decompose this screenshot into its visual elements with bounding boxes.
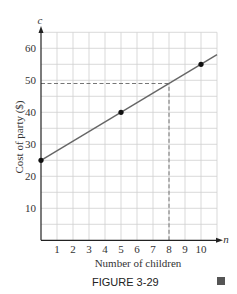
x-tick-label: 6 bbox=[134, 243, 140, 255]
data-point bbox=[198, 62, 203, 67]
x-tick-label: 7 bbox=[150, 243, 156, 255]
x-axis-variable: n bbox=[223, 233, 229, 245]
x-axis-title: Number of children bbox=[95, 257, 182, 269]
data-point bbox=[38, 158, 43, 163]
x-tick-label: 5 bbox=[118, 243, 124, 255]
y-axis-arrow-icon bbox=[39, 26, 44, 33]
x-tick-label: 2 bbox=[70, 243, 76, 255]
x-axis-arrow-icon bbox=[216, 238, 223, 243]
y-tick-label: 10 bbox=[25, 202, 37, 214]
x-tick-labels: 12345678910 bbox=[54, 243, 207, 255]
y-axis-title: Cost of party ($) bbox=[13, 100, 26, 173]
x-tick-label: 3 bbox=[86, 243, 92, 255]
axes bbox=[39, 26, 224, 243]
x-tick-label: 4 bbox=[102, 243, 108, 255]
y-axis-variable: c bbox=[38, 14, 43, 26]
x-tick-label: 10 bbox=[196, 243, 208, 255]
x-tick-label: 9 bbox=[182, 243, 188, 255]
y-tick-label: 30 bbox=[25, 138, 37, 150]
end-of-section-marker-icon bbox=[217, 277, 225, 285]
y-tick-label: 20 bbox=[25, 170, 37, 182]
x-tick-label: 8 bbox=[166, 243, 172, 255]
grid bbox=[41, 32, 217, 240]
chart: 12345678910 102030405060 c n Number of c… bbox=[0, 0, 237, 294]
y-tick-label: 60 bbox=[25, 42, 37, 54]
y-tick-labels: 102030405060 bbox=[25, 42, 37, 214]
x-tick-label: 1 bbox=[54, 243, 60, 255]
figure-caption: FIGURE 3-29 bbox=[92, 276, 159, 288]
data-point bbox=[118, 110, 123, 115]
y-tick-label: 50 bbox=[25, 74, 37, 86]
y-tick-label: 40 bbox=[25, 106, 37, 118]
